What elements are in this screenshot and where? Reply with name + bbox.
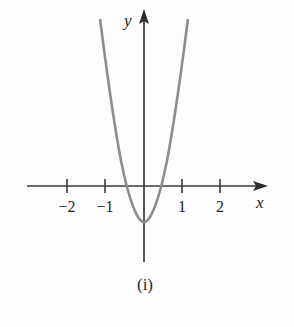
x-tick-label--1: −1 — [90, 199, 120, 215]
x-tick-label-2: 2 — [210, 199, 230, 215]
x-tick-label-1: 1 — [172, 199, 192, 215]
y-axis-label: y — [124, 12, 132, 29]
figure-panel: y x −2 −1 1 2 (i) — [0, 0, 294, 327]
x-tick-label--2: −2 — [52, 199, 82, 215]
x-axis-label: x — [256, 194, 264, 211]
figure-caption: (i) — [115, 276, 175, 293]
